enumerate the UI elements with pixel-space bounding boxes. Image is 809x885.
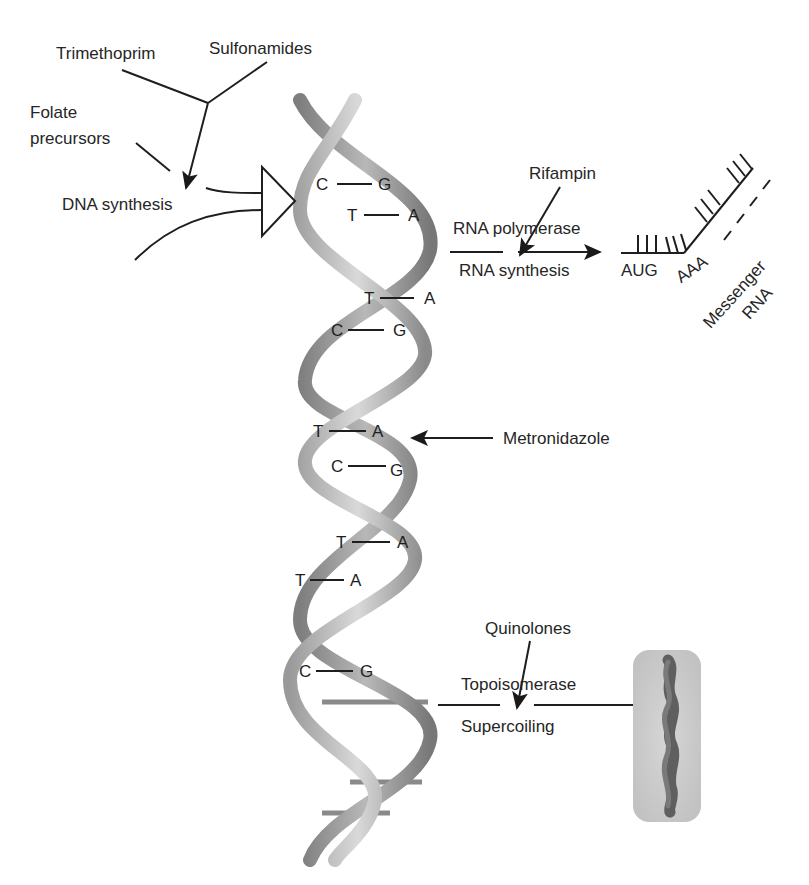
base-left: T xyxy=(313,423,323,440)
base-right: G xyxy=(390,462,403,479)
label-precursors: precursors xyxy=(30,130,110,147)
label-rna-synthesis: RNA synthesis xyxy=(459,262,570,279)
base-right: G xyxy=(378,176,391,193)
base-left: T xyxy=(364,290,374,307)
dna-synthesis-arrowhead xyxy=(262,167,295,236)
label-metronidazole: Metronidazole xyxy=(503,430,610,447)
folate-pathway-lines xyxy=(122,62,267,260)
label-sulfonamides: Sulfonamides xyxy=(209,40,312,57)
base-right: G xyxy=(360,663,373,680)
base-left: T xyxy=(295,572,305,589)
label-topoisomerase: Topoisomerase xyxy=(461,676,576,693)
label-folate: Folate xyxy=(30,104,77,121)
label-quinolones: Quinolones xyxy=(485,620,571,637)
label-rna-polymerase: RNA polymerase xyxy=(453,220,581,237)
base-right: A xyxy=(424,290,435,307)
label-rifampin: Rifampin xyxy=(529,165,596,182)
label-supercoiling: Supercoiling xyxy=(461,718,555,735)
label-dna-synthesis: DNA synthesis xyxy=(62,196,173,213)
base-right: A xyxy=(350,572,361,589)
label-aug: AUG xyxy=(621,262,658,279)
base-left: C xyxy=(331,458,343,475)
messenger-rna-strand xyxy=(621,154,770,253)
label-trimethoprim: Trimethoprim xyxy=(56,45,156,62)
base-left: T xyxy=(347,207,357,224)
base-right: A xyxy=(408,207,419,224)
base-left: T xyxy=(336,534,346,551)
base-right: G xyxy=(393,322,406,339)
base-left: C xyxy=(316,176,328,193)
base-left: C xyxy=(299,663,311,680)
base-right: A xyxy=(397,534,408,551)
bacterial-cell xyxy=(633,650,701,822)
diagram-canvas xyxy=(0,0,809,885)
base-left: C xyxy=(331,322,343,339)
base-right: A xyxy=(372,423,383,440)
